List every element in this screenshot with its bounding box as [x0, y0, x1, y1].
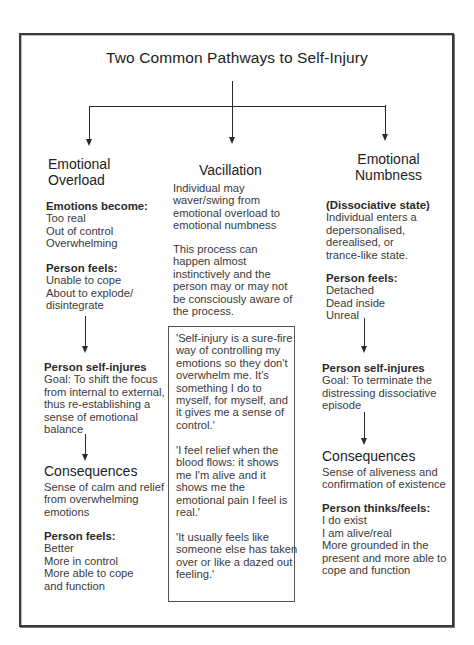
text-line: be consciously aware of [173, 293, 292, 305]
connector-horizontal [89, 106, 386, 107]
left-self-injures-section: Person self-injures Goal: To shift the f… [44, 361, 165, 435]
list-item: cope and function [322, 564, 446, 576]
person-feels-label: Person feels: [326, 272, 398, 284]
arrow-left-icon [86, 139, 92, 146]
list-item: Out of control [46, 225, 148, 237]
left-consequences-heading: Consequences [44, 464, 137, 480]
left-feels-section: Person feels: Unable to cope About to ex… [46, 262, 133, 312]
person-self-injures-label: Person self-injures [322, 362, 436, 374]
diagram-title: Two Common Pathways to Self-Injury [0, 49, 474, 67]
text-line: it gives me a sense of [176, 406, 293, 418]
right-consequences-heading: Consequences [322, 449, 415, 465]
right-heading-line: Emotional [355, 152, 422, 168]
text-line: trance-like state. [326, 249, 430, 261]
left-consequences-text: Sense of calm and relief from overwhelmi… [44, 481, 164, 518]
left-heading: Emotional Overload [48, 157, 110, 188]
right-dissociative-section: (Dissociative state) Individual enters a… [326, 199, 430, 261]
list-item: Overwhelming [46, 237, 148, 249]
right-arrow-1-shaft [364, 318, 365, 348]
list-item: present and more able to [322, 552, 446, 564]
text-line: from overwhelming [44, 493, 164, 505]
text-line: instinctively and the [173, 268, 292, 280]
right-self-injures-section: Person self-injures Goal: To terminate t… [322, 362, 436, 412]
arrow-down-icon [361, 438, 367, 445]
middle-para-1: Individual may waver/swing from emotiona… [173, 182, 280, 232]
person-feels-label: Person feels: [46, 262, 133, 274]
list-item: I am alive/real [322, 527, 446, 539]
list-item: Better [44, 542, 134, 554]
quote-3: 'It usually feels like someone else has … [176, 531, 297, 581]
right-feels-section: Person feels: Detached Dead inside Unrea… [326, 272, 398, 322]
connector-right-drop [385, 105, 386, 137]
text-line: sense of emotional [44, 411, 165, 423]
text-line: Goal: To shift the focus [44, 373, 165, 385]
text-line: distressing dissociative [322, 387, 436, 399]
left-arrow-2-shaft [85, 434, 86, 456]
person-thinks-feels-label: Person thinks/feels: [322, 502, 446, 514]
text-line: thus re-establishing a [44, 398, 165, 410]
text-line: the process. [173, 305, 292, 317]
text-line: happen almost [173, 255, 292, 267]
text-line: emotional numbness [173, 219, 280, 231]
list-item: More in control [44, 555, 134, 567]
list-item: I do exist [322, 514, 446, 526]
connector-trunk [232, 81, 233, 141]
dissociative-state-label: (Dissociative state) [326, 199, 430, 211]
list-item: More able to cope [44, 567, 134, 579]
left-heading-line: Overload [48, 173, 110, 189]
left-heading-line: Emotional [48, 157, 110, 173]
text-line: Sense of aliveness and [322, 466, 446, 478]
text-line: shows me the [176, 481, 287, 493]
text-line: Goal: To terminate the [322, 374, 436, 386]
list-item: Dead inside [326, 297, 398, 309]
arrow-down-icon [361, 346, 367, 353]
text-line: Individual may [173, 182, 280, 194]
person-self-injures-label: Person self-injures [44, 361, 165, 373]
connector-left-drop [89, 106, 90, 141]
list-item: About to explode/ [46, 287, 133, 299]
left-arrow-1-shaft [85, 316, 86, 348]
right-heading: Emotional Numbness [355, 152, 422, 183]
list-item: More grounded in the [322, 539, 446, 551]
text-line: emotions so they don't [176, 357, 293, 369]
list-item: Unable to cope [46, 274, 133, 286]
middle-para-2: This process can happen almost instincti… [173, 243, 292, 317]
text-line: myself, for myself, and [176, 394, 293, 406]
text-line: depersonalised, [326, 224, 430, 236]
list-item: Too real [46, 212, 148, 224]
left-after-feels-section: Person feels: Better More in control Mor… [44, 530, 134, 592]
text-line: way of controlling my [176, 344, 293, 356]
right-heading-line: Numbness [355, 168, 422, 184]
text-line: emotions [44, 506, 164, 518]
text-line: episode [322, 399, 436, 411]
arrow-middle-icon [229, 137, 235, 144]
text-line: This process can [173, 243, 292, 255]
text-line: derealised, or [326, 236, 430, 248]
text-line: control.' [176, 419, 293, 431]
list-item: Unreal [326, 309, 398, 321]
text-line: from internal to external, [44, 386, 165, 398]
arrow-down-icon [82, 454, 88, 461]
right-after-feels-section: Person thinks/feels: I do exist I am ali… [322, 502, 446, 576]
right-consequences-text: Sense of aliveness and confirmation of e… [322, 466, 446, 491]
text-line: me I'm alive and it [176, 469, 287, 481]
arrow-right-icon [382, 134, 388, 141]
text-line: 'Self-injury is a sure-fire [176, 332, 293, 344]
quote-2: 'I feel relief when the blood flows: it … [176, 444, 287, 518]
text-line: Sense of calm and relief [44, 481, 164, 493]
text-line: blood flows: it shows [176, 456, 287, 468]
text-line: confirmation of existence [322, 478, 446, 490]
text-line: person may or may not [173, 280, 292, 292]
text-line: balance [44, 423, 165, 435]
text-line: emotional overload to [173, 207, 280, 219]
right-arrow-2-shaft [364, 412, 365, 440]
text-line: emotional pain I feel is [176, 494, 287, 506]
text-line: 'It usually feels like [176, 531, 297, 543]
middle-heading: Vacillation [199, 163, 262, 179]
list-item: Detached [326, 284, 398, 296]
text-line: feeling.' [176, 568, 297, 580]
list-item: disintegrate [46, 299, 133, 311]
list-item: and function [44, 580, 134, 592]
text-line: waver/swing from [173, 194, 280, 206]
text-line: overwhelm me. It's [176, 369, 293, 381]
